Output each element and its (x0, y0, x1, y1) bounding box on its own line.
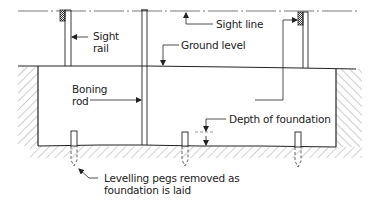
leader-ground-level (163, 45, 179, 65)
label-levelling-pegs-1: Levelling pegs removed as (104, 172, 240, 184)
dimension-depth-of-foundation (195, 119, 226, 145)
label-sight-rail-2: rail (93, 42, 109, 54)
soil-right-bank (336, 69, 362, 147)
leader-sight-line (186, 13, 213, 24)
right-sight-rail (298, 12, 308, 68)
label-sight-line: Sight line (216, 18, 263, 30)
soil-trench-bottom (30, 146, 362, 158)
leader-levelling-pegs (79, 169, 98, 178)
label-boning-rod-2: rod (72, 95, 89, 107)
label-sight-rail-1: Sight (93, 30, 119, 42)
foundation-setting-out-diagram: Sight line Sight rail Ground level Bonin… (0, 0, 374, 208)
left-sight-rail (60, 10, 71, 66)
label-boning-rod-1: Boning (72, 83, 107, 95)
ground-level-line (18, 66, 356, 69)
label-ground-level: Ground level (181, 39, 246, 51)
leader-right-rail (255, 20, 297, 100)
label-depth-of-foundation: Depth of foundation (229, 113, 331, 125)
label-levelling-pegs-2: foundation is laid (104, 184, 191, 196)
soil-left-bank (18, 67, 38, 146)
boning-rod (141, 10, 148, 145)
